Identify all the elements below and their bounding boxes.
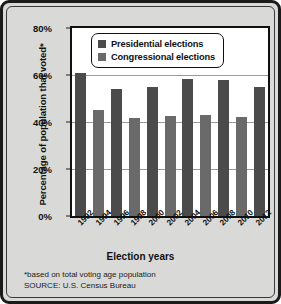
bar xyxy=(200,115,211,216)
bar xyxy=(111,89,122,216)
y-axis-tick: 0% xyxy=(12,211,52,222)
legend-item-presidential: Presidential elections xyxy=(98,37,215,50)
bar xyxy=(129,118,140,216)
bar xyxy=(254,87,265,216)
legend-item-congressional: Congressional elections xyxy=(98,50,215,63)
legend-label: Presidential elections xyxy=(111,39,203,49)
bar xyxy=(93,110,104,216)
legend-swatch-icon xyxy=(98,53,106,61)
chart-frame: Percentage of population that voted* 0%2… xyxy=(6,6,275,298)
chart-figure: Percentage of population that voted* 0%2… xyxy=(0,0,281,304)
bar xyxy=(147,87,158,216)
legend-label: Congressional elections xyxy=(111,52,215,62)
x-axis-title: Election years xyxy=(7,251,274,262)
y-axis-tick: 20% xyxy=(12,164,52,175)
legend: Presidential elections Congressional ele… xyxy=(91,33,224,68)
y-axis-tick: 60% xyxy=(12,70,52,81)
bar xyxy=(236,117,247,216)
legend-swatch-icon xyxy=(98,40,106,48)
footnotes: *based on total voting age population SO… xyxy=(24,269,156,291)
bar xyxy=(165,116,176,216)
y-axis-tick: 80% xyxy=(12,23,52,34)
footnote-basis: *based on total voting age population xyxy=(24,269,156,280)
bar xyxy=(75,73,86,216)
y-axis-tick: 40% xyxy=(12,117,52,128)
bar xyxy=(182,79,193,216)
footnote-source: SOURCE: U.S. Census Bureau xyxy=(24,280,156,291)
bar xyxy=(218,80,229,216)
